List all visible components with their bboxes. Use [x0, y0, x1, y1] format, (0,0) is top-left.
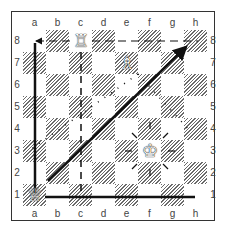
white-king-icon: ♔	[138, 140, 161, 162]
bishop-diag-right	[138, 74, 190, 131]
white-queen-icon: ♕	[23, 184, 46, 206]
bishop-diag-left	[30, 74, 138, 150]
white-rook-icon: ♖	[69, 30, 92, 52]
white-bishop-icon: ♗	[115, 52, 138, 74]
